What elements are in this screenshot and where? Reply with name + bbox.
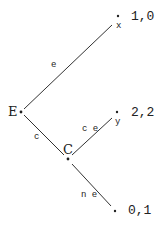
- edge-ce-label: c e: [82, 125, 98, 134]
- terminal-y-label: y: [115, 118, 120, 127]
- terminal-x-dot: [117, 15, 119, 17]
- node-e-label: E: [8, 105, 18, 118]
- payoff-z: 0,1: [128, 204, 151, 217]
- terminal-z-dot: [114, 210, 116, 212]
- edge-ne-label: n e: [81, 191, 97, 200]
- payoff-y: 2,2: [131, 106, 154, 119]
- terminal-x-label: x: [116, 22, 121, 31]
- node-e-dot: [20, 111, 23, 114]
- payoff-x: 1,0: [131, 10, 154, 23]
- node-c-dot: [67, 158, 70, 161]
- node-c-label: C: [63, 143, 73, 156]
- edge-c-label: c: [34, 133, 39, 142]
- edge-c-line: [24, 115, 64, 155]
- edge-e-label: e: [51, 61, 56, 70]
- edge-e-line: [24, 25, 112, 109]
- terminal-y-dot: [116, 111, 118, 113]
